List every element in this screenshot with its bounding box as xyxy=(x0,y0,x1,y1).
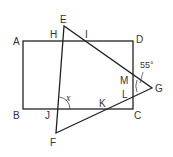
label-f: F xyxy=(50,137,56,148)
label-l: L xyxy=(122,89,128,100)
label-m: M xyxy=(120,75,128,86)
angle-x-label: x xyxy=(65,92,71,103)
label-c: C xyxy=(134,110,141,121)
label-a: A xyxy=(13,36,20,47)
label-b: B xyxy=(13,110,20,121)
label-i: I xyxy=(85,29,88,40)
label-d: D xyxy=(136,34,143,45)
label-j: J xyxy=(45,110,50,121)
angle-55-label: 55° xyxy=(140,60,154,70)
label-k: K xyxy=(99,98,106,109)
label-e: E xyxy=(60,14,67,25)
angle-55-arc xyxy=(136,80,137,92)
geometry-diagram: A B C D E F G H I J K L M 55° x xyxy=(0,0,173,157)
label-h: H xyxy=(50,29,57,40)
rectangle-abcd xyxy=(23,41,133,109)
label-g: G xyxy=(155,83,163,94)
